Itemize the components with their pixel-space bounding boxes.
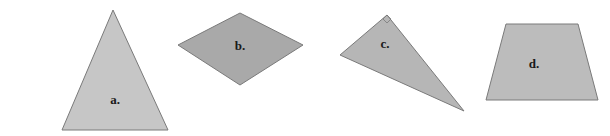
shape-b-label: b. <box>235 38 245 53</box>
shape-d-label: d. <box>529 56 539 71</box>
shape-d-trapezoid: d. <box>486 24 598 100</box>
shape-a-label: a. <box>110 92 120 107</box>
geometry-figure: a. b. c. d. <box>0 0 610 136</box>
shape-c-right-triangle: c. <box>340 15 464 111</box>
right-triangle-c-body <box>340 15 464 111</box>
triangle-a-body <box>62 10 168 130</box>
shape-b-rhombus: b. <box>178 13 303 85</box>
trapezoid-d-body <box>486 24 598 100</box>
shape-a-triangle: a. <box>62 10 168 130</box>
shapes-diagram: a. b. c. d. <box>0 0 610 136</box>
shape-c-label: c. <box>380 36 389 51</box>
